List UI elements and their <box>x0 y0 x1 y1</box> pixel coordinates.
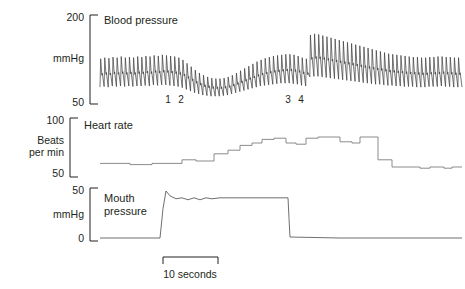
hr-unit-label-line2: per min <box>6 146 64 158</box>
mp-trace-title-line1: Mouth <box>104 192 135 205</box>
mp-axis-top-tick: 50 <box>56 185 84 196</box>
time-scale-caption: 10 seconds <box>150 268 230 280</box>
valsalva-figure: 200 50 mmHg Blood pressure 1 2 3 4 100 5… <box>0 0 465 289</box>
hr-axis-bottom-tick: 50 <box>36 168 64 179</box>
phase-marker-2: 2 <box>176 94 186 105</box>
hr-trace-title: Heart rate <box>84 119 133 132</box>
hr-axis-bracket <box>68 117 80 183</box>
mp-unit-label: mmHg <box>30 208 84 220</box>
phase-marker-1: 1 <box>163 94 173 105</box>
mp-axis-bracket <box>88 187 100 249</box>
phase-marker-3: 3 <box>283 94 293 105</box>
mp-trace-title-line2: pressure <box>104 205 147 218</box>
time-scale-bar <box>160 256 230 268</box>
mp-axis-bottom-tick: 0 <box>56 233 84 244</box>
phase-marker-4: 4 <box>296 94 306 105</box>
hr-unit-label-line1: Beats <box>6 134 64 146</box>
blood-pressure-trace <box>0 0 465 115</box>
hr-axis-top-tick: 100 <box>36 115 64 126</box>
